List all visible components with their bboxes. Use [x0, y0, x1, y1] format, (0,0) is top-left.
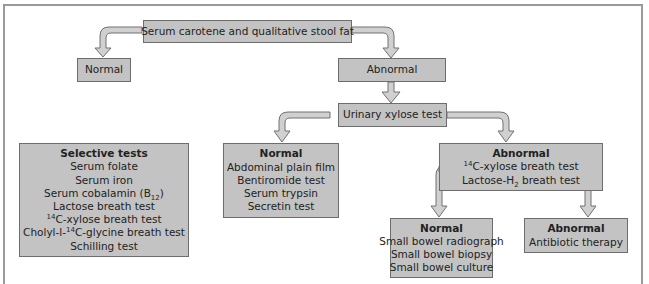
arrow-start-to-normal: [95, 27, 142, 57]
node-title: Normal: [420, 222, 463, 235]
arrow-start-to-abnormal: [352, 27, 399, 58]
list-item: Small bowel radiograph: [379, 235, 503, 248]
list-item: 14C-xylose breath test: [464, 160, 579, 173]
arrow-abnormal-to-xylose: [382, 82, 400, 103]
list-item: Serum cobalamin (B12): [44, 187, 164, 200]
node-urinary-xylose: Urinary xylose test: [338, 103, 447, 127]
node-serum-carotene: Serum carotene and qualitative stool fat: [143, 20, 352, 43]
node-top-abnormal: Abnormal: [338, 58, 446, 82]
node-title: Normal: [260, 147, 303, 160]
list-item: Cholyl-l-14C-glycine breath test: [23, 226, 185, 239]
node-label: Serum carotene and qualitative stool fat: [141, 25, 354, 38]
node-breath-abnormal: Abnormal Antibiotic therapy: [524, 218, 628, 253]
list-item: Lactose-H2 breath test: [462, 174, 580, 187]
list-item: Lactose breath test: [53, 200, 155, 213]
node-title: Abnormal: [547, 222, 604, 235]
node-title: Selective tests: [60, 147, 148, 160]
node-title: Abnormal: [492, 147, 549, 160]
list-item: Small bowel culture: [390, 261, 494, 274]
list-item: Small bowel biopsy: [391, 248, 492, 261]
list-item: 14C-xylose breath test: [47, 213, 162, 226]
node-xylose-abnormal: Abnormal 14C-xylose breath test Lactose-…: [439, 143, 603, 191]
node-label: Normal: [85, 63, 123, 76]
node-breath-normal: Normal Small bowel radiograph Small bowe…: [390, 218, 493, 278]
arrow-xylose-to-abnormal: [447, 112, 514, 142]
list-item: Serum iron: [75, 174, 133, 187]
list-item: Schilling test: [70, 240, 138, 253]
node-xylose-normal: Normal Abdominal plain film Bentiromide …: [223, 143, 339, 218]
list-item: Bentiromide test: [237, 174, 325, 187]
node-label: Urinary xylose test: [343, 108, 442, 121]
node-selective-tests: Selective tests Serum folate Serum iron …: [19, 143, 189, 257]
arrow-xylose-to-normal: [274, 112, 330, 142]
list-item: Secretin test: [248, 200, 315, 213]
list-item: Serum folate: [70, 160, 138, 173]
list-item: Antibiotic therapy: [529, 236, 623, 249]
list-item: Serum trypsin: [244, 187, 318, 200]
node-label: Abnormal: [367, 63, 418, 76]
list-item: Abdominal plain film: [227, 161, 335, 174]
node-top-normal: Normal: [77, 58, 131, 82]
